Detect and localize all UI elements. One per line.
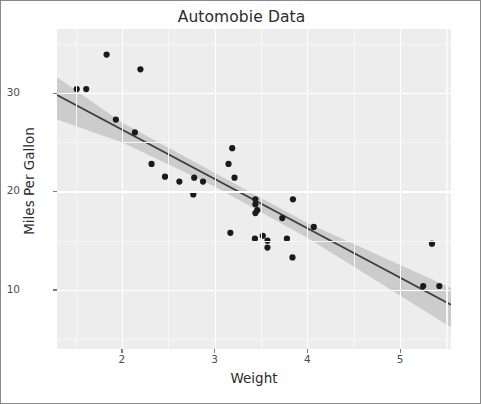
gridline-minor-vertical xyxy=(76,29,77,349)
scatter-point xyxy=(225,161,231,167)
gridline-minor-vertical xyxy=(354,29,355,349)
gridline-major-vertical xyxy=(400,29,401,349)
scatter-point xyxy=(103,52,109,58)
plot-svg xyxy=(57,29,451,349)
gridline-minor-vertical xyxy=(446,29,447,349)
scatter-point xyxy=(264,244,270,250)
scatter-point xyxy=(290,196,296,202)
gridline-major-horizontal xyxy=(57,290,451,291)
gridline-minor-vertical xyxy=(261,29,262,349)
scatter-points xyxy=(74,52,443,290)
y-tick-mark xyxy=(53,93,57,94)
gridline-major-vertical xyxy=(307,29,308,349)
gridline-major-vertical xyxy=(122,29,123,349)
x-tick-label: 4 xyxy=(292,353,322,365)
y-axis-label: Miles Per Gallon xyxy=(21,81,37,281)
x-tick-mark xyxy=(214,349,215,353)
scatter-point xyxy=(176,179,182,185)
page-title: Automobie Data xyxy=(1,8,481,26)
scatter-point xyxy=(200,179,206,185)
y-tick-mark xyxy=(53,191,57,192)
gridline-major-horizontal xyxy=(57,191,451,192)
x-axis-label: Weight xyxy=(57,370,451,386)
scatter-point xyxy=(113,116,119,122)
gridline-major-horizontal xyxy=(57,93,451,94)
y-tick-label: 30 xyxy=(0,86,20,98)
scatter-point xyxy=(289,254,295,260)
y-tick-label: 20 xyxy=(0,184,20,196)
scatter-point xyxy=(162,174,168,180)
x-tick-label: 2 xyxy=(107,353,137,365)
scatter-point xyxy=(191,175,197,181)
chart-screenshot: Automobie Data 102030 2345 Weight Miles … xyxy=(0,0,481,404)
scatter-point xyxy=(311,224,317,230)
scatter-point xyxy=(420,283,426,289)
scatter-point xyxy=(436,283,442,289)
scatter-point xyxy=(148,161,154,167)
gridline-minor-horizontal xyxy=(57,339,451,340)
scatter-point xyxy=(279,215,285,221)
scatter-point xyxy=(137,66,143,72)
x-tick-mark xyxy=(307,349,308,353)
scatter-point xyxy=(252,210,258,216)
gridline-minor-horizontal xyxy=(57,142,451,143)
plot-panel xyxy=(57,29,451,349)
y-tick-label: 10 xyxy=(0,283,20,295)
x-tick-label: 3 xyxy=(200,353,230,365)
x-tick-mark xyxy=(121,349,122,353)
gridline-minor-horizontal xyxy=(57,241,451,242)
scatter-point xyxy=(252,196,258,202)
gridline-minor-vertical xyxy=(168,29,169,349)
gridline-major-vertical xyxy=(215,29,216,349)
x-tick-label: 5 xyxy=(385,353,415,365)
x-tick-mark xyxy=(400,349,401,353)
scatter-point xyxy=(132,129,138,135)
y-tick-mark xyxy=(53,289,57,290)
scatter-point xyxy=(83,86,89,92)
scatter-point xyxy=(227,230,233,236)
scatter-point xyxy=(231,175,237,181)
scatter-point xyxy=(229,145,235,151)
gridline-minor-horizontal xyxy=(57,44,451,45)
